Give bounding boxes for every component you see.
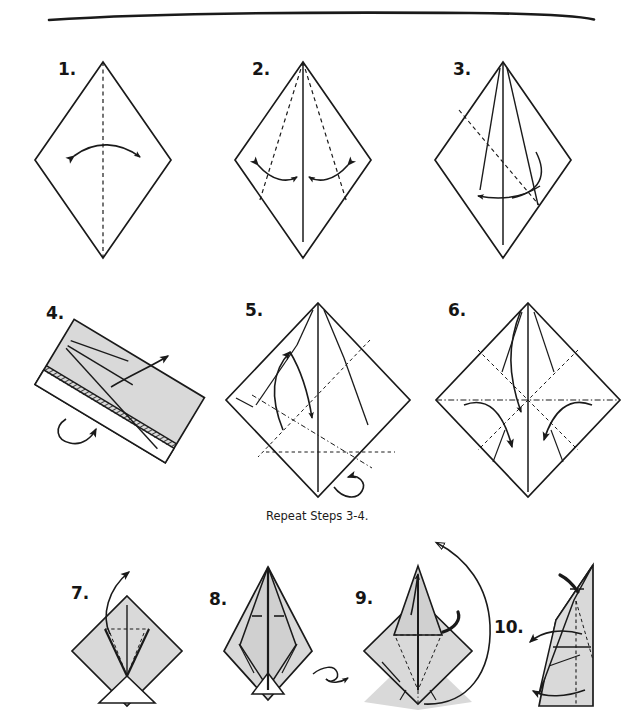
step-4-figure — [35, 319, 204, 462]
step-number-6: 6. — [448, 300, 466, 320]
step-number-2: 2. — [252, 59, 270, 79]
step-5-figure — [226, 303, 410, 497]
step-1-figure — [35, 62, 171, 258]
step-number-5: 5. — [245, 300, 263, 320]
step-number-8: 8. — [209, 589, 227, 609]
origami-diagram-canvas — [0, 0, 640, 710]
repeat-steps-caption: Repeat Steps 3-4. — [266, 509, 368, 523]
step-2-figure — [235, 62, 371, 258]
step-8-figure — [224, 567, 348, 700]
step-number-4: 4. — [46, 303, 64, 323]
step-9-figure — [364, 543, 490, 710]
step-10-figure — [530, 565, 593, 706]
step-3-figure — [435, 62, 571, 258]
step-number-9: 9. — [355, 588, 373, 608]
instruction-sheet-page: 1. 2. 3. 4. 5. 6. 7. 8. 9. 10. Repeat St… — [0, 0, 640, 710]
step-6-figure — [436, 303, 620, 497]
step-number-3: 3. — [453, 59, 471, 79]
step-number-10: 10. — [494, 617, 524, 637]
hand-drawn-rule — [49, 13, 594, 20]
step-number-7: 7. — [71, 583, 89, 603]
step-number-1: 1. — [58, 59, 76, 79]
